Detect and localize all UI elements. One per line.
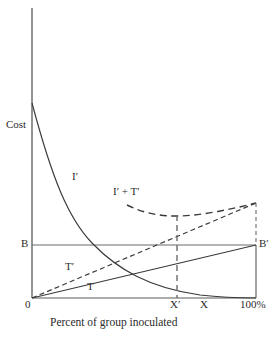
x-tick-label-hundred: 100% [240,299,266,310]
x-tick-label-x: X [200,299,208,310]
y-axis-title: Cost [6,119,26,130]
curve-label-i-prime: I′ [72,171,78,182]
treatment-prime-line [32,203,256,298]
x-tick-label-x-prime: X′ [170,299,180,310]
curve-label-t-prime: T′ [65,261,74,272]
total-cost-curve [127,203,256,216]
curve-label-t: T [87,281,94,292]
budget-label-b: B [21,238,28,249]
plot-area [0,0,278,343]
curve-label-i-plus-t: I′ + T′ [113,186,140,197]
budget-label-bprime: B′ [259,238,269,249]
origin-tick-label: 0 [25,299,31,310]
x-axis-title: Percent of group inoculated [50,317,177,329]
cost-inoculation-chart: Cost Percent of group inoculated 0 B B′ … [0,0,278,343]
